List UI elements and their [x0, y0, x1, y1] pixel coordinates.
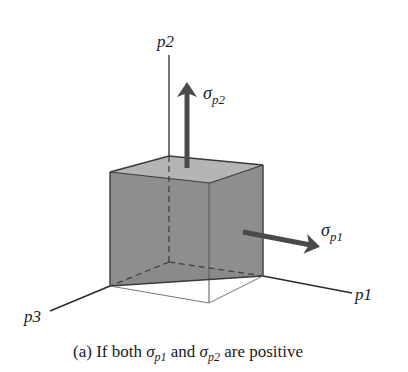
- sigma-p1-label: σp1: [321, 220, 343, 244]
- p3-axis: [50, 286, 110, 311]
- p3-label: p3: [23, 307, 41, 326]
- sigma-p2-label: σp2: [203, 83, 225, 107]
- figure-caption: (a) If both σp1 and σp2 are positive: [73, 342, 303, 364]
- shaded-prism: [110, 156, 263, 286]
- p1-axis: [263, 276, 352, 293]
- p1-label: p1: [354, 285, 372, 304]
- stress-element-diagram: p2 p1 p3 σp2 σp1 (a) If both σp1 and σp2…: [0, 0, 408, 372]
- p2-label: p2: [156, 32, 175, 51]
